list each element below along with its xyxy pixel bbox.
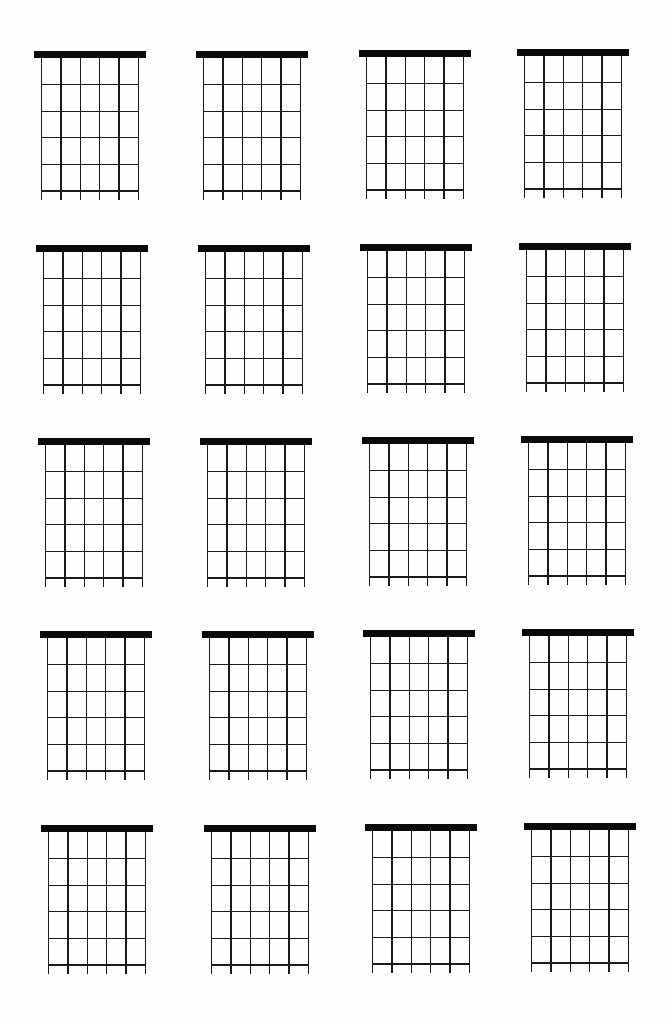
nut-bar	[359, 50, 471, 57]
chord-grid	[38, 438, 150, 587]
chord-grid	[34, 51, 146, 200]
chord-grid	[36, 245, 148, 394]
chord-diagram	[204, 825, 316, 974]
chord-diagram-sheet	[0, 0, 668, 1024]
nut-bar	[198, 245, 310, 252]
chord-diagram	[196, 51, 308, 200]
chord-grid	[196, 51, 308, 200]
nut-bar	[204, 825, 316, 832]
chord-diagram	[38, 438, 150, 587]
nut-bar	[517, 49, 629, 56]
chord-grid	[359, 50, 471, 199]
chord-diagram	[521, 436, 633, 585]
chord-grid	[522, 629, 634, 778]
nut-bar	[521, 436, 633, 443]
nut-bar	[34, 51, 146, 58]
chord-diagram	[34, 51, 146, 200]
chord-diagram	[36, 245, 148, 394]
nut-bar	[524, 823, 636, 830]
chord-diagram	[517, 49, 629, 198]
nut-bar	[36, 245, 148, 252]
chord-diagram	[519, 243, 631, 392]
nut-bar	[40, 631, 152, 638]
nut-bar	[519, 243, 631, 250]
nut-bar	[522, 629, 634, 636]
chord-diagram	[200, 438, 312, 587]
chord-diagram	[360, 244, 472, 393]
nut-bar	[196, 51, 308, 58]
nut-bar	[363, 630, 475, 637]
chord-diagram	[524, 823, 636, 972]
chord-grid	[524, 823, 636, 972]
chord-grid	[40, 631, 152, 780]
chord-grid	[198, 245, 310, 394]
chord-grid	[202, 631, 314, 780]
chord-grid	[363, 630, 475, 779]
chord-grid	[360, 244, 472, 393]
chord-diagram	[363, 630, 475, 779]
chord-grid	[41, 825, 153, 974]
nut-bar	[362, 437, 474, 444]
chord-grid	[362, 437, 474, 586]
chord-diagram	[41, 825, 153, 974]
chord-grid	[519, 243, 631, 392]
nut-bar	[365, 824, 477, 831]
chord-diagram	[359, 50, 471, 199]
chord-diagram	[198, 245, 310, 394]
chord-diagram	[362, 437, 474, 586]
nut-bar	[360, 244, 472, 251]
chord-diagram	[202, 631, 314, 780]
chord-grid	[521, 436, 633, 585]
chord-grid	[517, 49, 629, 198]
nut-bar	[200, 438, 312, 445]
nut-bar	[41, 825, 153, 832]
chord-grid	[204, 825, 316, 974]
nut-bar	[38, 438, 150, 445]
chord-diagram	[522, 629, 634, 778]
chord-grid	[365, 824, 477, 973]
nut-bar	[202, 631, 314, 638]
chord-diagram	[365, 824, 477, 973]
chord-diagram	[40, 631, 152, 780]
chord-grid	[200, 438, 312, 587]
